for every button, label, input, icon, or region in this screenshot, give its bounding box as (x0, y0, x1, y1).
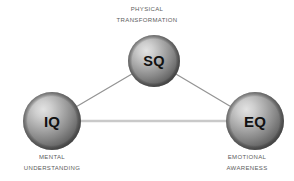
node-sq-label: SQ (143, 53, 164, 69)
caption-mental-understanding: Mental Understanding (0, 151, 110, 172)
caption-physical-transformation: Physical Transformation (77, 3, 217, 24)
diagram-canvas: SQ IQ EQ Physical Transformation Mental … (0, 0, 294, 181)
caption-physical-transformation-line1: Physical (77, 3, 217, 14)
caption-emotional-awareness-line2: Awareness (191, 162, 294, 173)
caption-physical-transformation-line2: Transformation (77, 14, 217, 25)
caption-mental-understanding-line2: Understanding (0, 162, 110, 173)
caption-emotional-awareness-line1: Emotional (191, 151, 294, 162)
caption-mental-understanding-line1: Mental (0, 151, 110, 162)
node-iq[interactable]: IQ (23, 92, 81, 150)
node-sq[interactable]: SQ (128, 35, 180, 87)
node-iq-label: IQ (44, 113, 60, 130)
node-eq[interactable]: EQ (226, 92, 284, 150)
node-eq-label: EQ (244, 113, 266, 130)
caption-emotional-awareness: Emotional Awareness (191, 151, 294, 172)
